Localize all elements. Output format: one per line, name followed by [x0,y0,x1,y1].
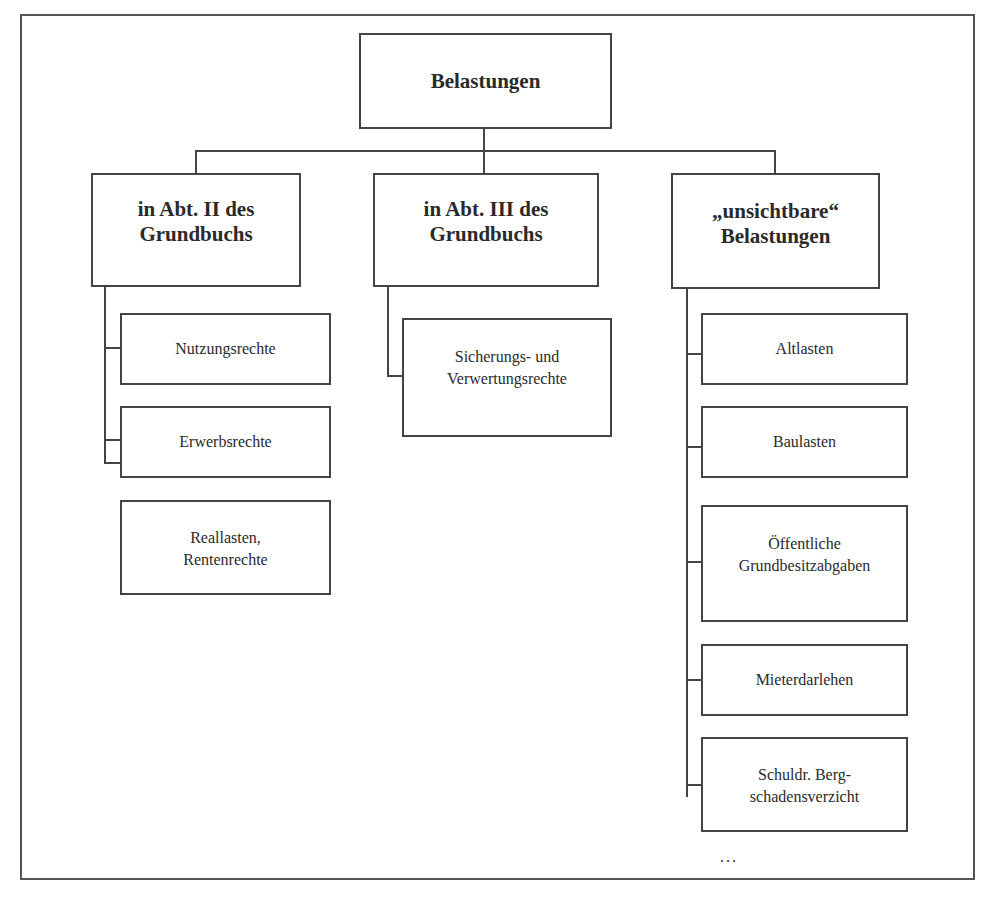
leaf-baulasten: Baulasten [701,406,908,478]
leaf-nutzungsrechte: Nutzungsrechte [120,313,331,385]
connector-abt2-child-2 [104,439,121,441]
leaf-label: Altlasten [776,338,834,360]
continuation-ellipsis: ... [720,848,738,866]
branch-label-unsichtbar: „unsichtbare“ Belastungen [712,199,839,249]
connector-abt3-spine [387,287,389,377]
leaf-label: Sicherungs- und Verwertungsrechte [447,346,567,390]
connector-unsichtbar-spine [686,289,688,797]
branch-node-abt2: in Abt. II des Grundbuchs [91,173,301,287]
connector-branch-3 [774,150,776,174]
branch-node-unsichtbar: „unsichtbare“ Belastungen [671,173,880,289]
leaf-label: Schuldr. Berg- schadensverzicht [750,764,859,808]
root-label: Belastungen [431,69,541,94]
leaf-label: Öffentliche Grundbesitzabgaben [739,533,871,577]
leaf-erwerbsrechte: Erwerbsrechte [120,406,331,478]
leaf-altlasten: Altlasten [701,313,908,385]
leaf-label: Mieterdarlehen [756,669,854,691]
branch-label-abt2: in Abt. II des Grundbuchs [138,197,255,247]
leaf-label: Erwerbsrechte [179,431,271,453]
leaf-bergschadensverzicht: Schuldr. Berg- schadensverzicht [701,737,908,832]
leaf-grundbesitzabgaben: Öffentliche Grundbesitzabgaben [701,505,908,622]
branch-node-abt3: in Abt. III des Grundbuchs [373,173,599,287]
connector-abt2-child-1 [104,347,121,349]
leaf-label: Nutzungsrechte [175,338,275,360]
leaf-label: Baulasten [773,431,836,453]
connector-horizontal-bar [195,150,776,152]
branch-label-abt3: in Abt. III des Grundbuchs [424,197,549,247]
connector-abt2-spine [104,287,106,464]
connector-branch-1 [195,150,197,174]
leaf-mieterdarlehen: Mieterdarlehen [701,644,908,716]
leaf-label: Reallasten, Rentenrechte [183,527,267,571]
connector-abt2-child-3 [104,462,121,464]
root-node: Belastungen [359,33,612,129]
leaf-sicherungsrechte: Sicherungs- und Verwertungsrechte [402,318,612,437]
leaf-reallasten: Reallasten, Rentenrechte [120,500,331,595]
